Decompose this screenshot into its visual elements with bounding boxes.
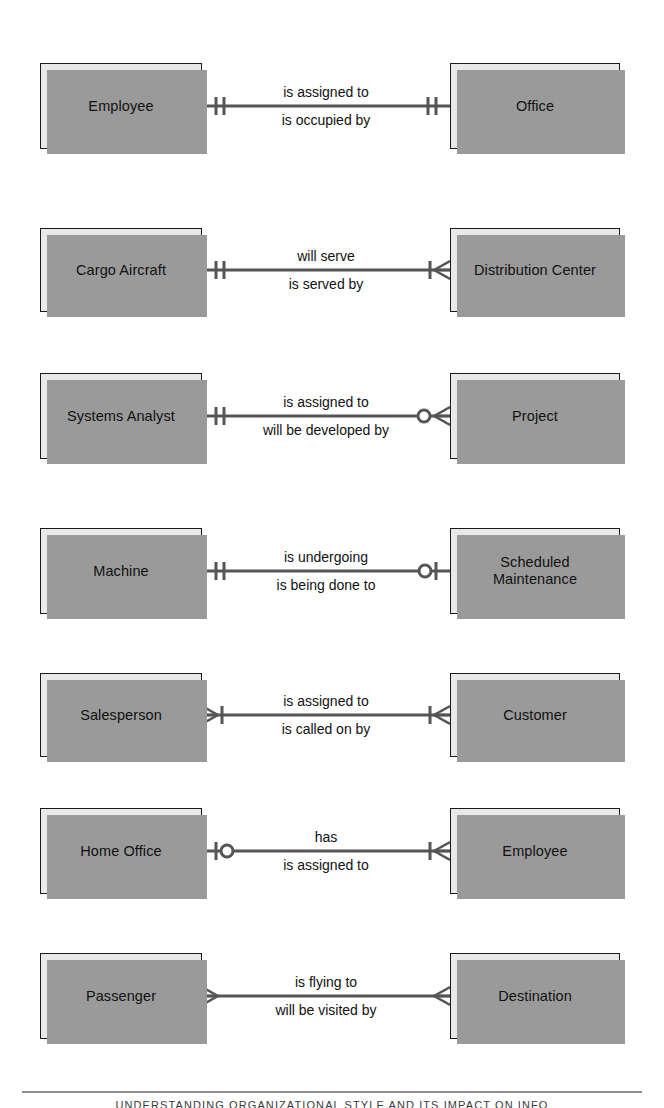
relationship-row: Home OfficeEmployeehasis assigned to: [0, 808, 664, 894]
entity-label: Scheduled Maintenance: [489, 554, 581, 587]
relationship-connector: [202, 528, 450, 614]
entity-box-left[interactable]: Machine: [40, 528, 202, 614]
entity-box-left[interactable]: Employee: [40, 63, 202, 149]
footer-divider: [22, 1091, 642, 1093]
relationship-connector: [202, 228, 450, 312]
relationship-row: Cargo AircraftDistribution Centerwill se…: [0, 228, 664, 312]
relationship-row: EmployeeOfficeis assigned tois occupied …: [0, 63, 664, 149]
relationship-connector: [202, 373, 450, 459]
relationship-connector: [202, 673, 450, 757]
entity-label: Customer: [499, 707, 571, 724]
entity-box-left[interactable]: Salesperson: [40, 673, 202, 757]
entity-label: Passenger: [82, 988, 160, 1005]
footer-text: UNDERSTANDING ORGANIZATIONAL STYLE AND I…: [0, 1099, 664, 1108]
entity-box-left[interactable]: Cargo Aircraft: [40, 228, 202, 312]
relationship-row: MachineScheduled Maintenanceis undergoin…: [0, 528, 664, 614]
entity-label: Systems Analyst: [63, 408, 179, 425]
entity-box-left[interactable]: Home Office: [40, 808, 202, 894]
entity-box-right[interactable]: Customer: [450, 673, 620, 757]
relationship-row: Systems AnalystProjectis assigned towill…: [0, 373, 664, 459]
entity-label: Distribution Center: [470, 262, 600, 279]
relationship-connector: [202, 63, 450, 149]
entity-label: Destination: [494, 988, 576, 1005]
entity-label: Machine: [89, 563, 153, 580]
entity-box-right[interactable]: Project: [450, 373, 620, 459]
entity-box-right[interactable]: Distribution Center: [450, 228, 620, 312]
entity-label: Home Office: [76, 843, 165, 860]
entity-label: Employee: [498, 843, 571, 860]
entity-box-right[interactable]: Employee: [450, 808, 620, 894]
entity-label: Cargo Aircraft: [72, 262, 170, 279]
entity-label: Salesperson: [76, 707, 166, 724]
entity-box-right[interactable]: Destination: [450, 953, 620, 1039]
cardinality-marker-right: [418, 407, 450, 425]
entity-box-left[interactable]: Passenger: [40, 953, 202, 1039]
relationship-connector: [202, 953, 450, 1039]
relationship-row: PassengerDestinationis flying towill be …: [0, 953, 664, 1039]
cardinality-marker-right: [434, 987, 450, 1005]
entity-box-right[interactable]: Scheduled Maintenance: [450, 528, 620, 614]
relationship-row: SalespersonCustomeris assigned tois call…: [0, 673, 664, 757]
entity-label: Office: [512, 98, 558, 115]
er-diagram: EmployeeOfficeis assigned tois occupied …: [0, 0, 664, 1108]
relationship-connector: [202, 808, 450, 894]
entity-box-right[interactable]: Office: [450, 63, 620, 149]
entity-box-left[interactable]: Systems Analyst: [40, 373, 202, 459]
entity-label: Employee: [84, 98, 157, 115]
entity-label: Project: [508, 408, 562, 425]
